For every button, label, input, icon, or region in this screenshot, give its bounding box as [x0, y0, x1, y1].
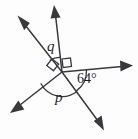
angle-label-64: 64°: [77, 72, 97, 86]
geometry-canvas: [0, 0, 138, 139]
ray-up-left-line: [24, 23, 63, 72]
ray-up-arrowhead: [51, 5, 61, 19]
angle-label-p: p: [55, 90, 63, 105]
angle-label-q: q: [47, 39, 55, 54]
ray-up-left: [18, 16, 63, 73]
ray-right: [62, 61, 133, 73]
angle-diagram: q p 64°: [0, 0, 138, 139]
ray-right-arrowhead: [120, 61, 133, 72]
right-angle-marker-upper: [62, 58, 71, 67]
